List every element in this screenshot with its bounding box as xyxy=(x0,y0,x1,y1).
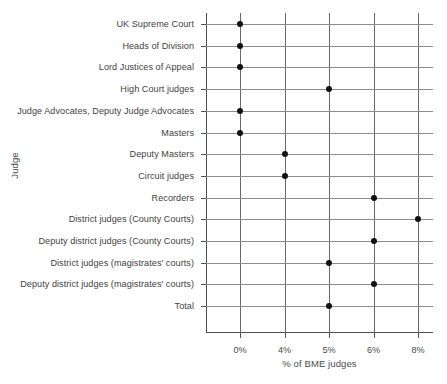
horizontal-gridline xyxy=(206,219,433,220)
x-axis-tick xyxy=(285,333,286,338)
y-axis-tick xyxy=(201,89,206,90)
y-axis-tick xyxy=(201,306,206,307)
y-axis-line xyxy=(206,13,207,333)
horizontal-gridline xyxy=(206,241,433,242)
y-axis-tick xyxy=(201,154,206,155)
x-axis-tick xyxy=(374,333,375,338)
horizontal-gridline xyxy=(206,89,433,90)
data-point xyxy=(237,130,243,136)
y-axis-category-label: Lord Justices of Appeal xyxy=(0,62,194,72)
x-axis-tick-label: 6% xyxy=(354,345,394,355)
data-point xyxy=(237,21,243,27)
data-point xyxy=(326,86,332,92)
data-point xyxy=(326,260,332,266)
y-axis-category-label: Deputy district judges (magistrates' cou… xyxy=(0,279,194,289)
data-point xyxy=(237,43,243,49)
x-axis-tick xyxy=(329,333,330,338)
x-axis-tick xyxy=(240,333,241,338)
y-axis-tick xyxy=(201,284,206,285)
horizontal-gridline xyxy=(206,198,433,199)
horizontal-gridline xyxy=(206,284,433,285)
y-axis-category-label: Judge Advocates, Deputy Judge Advocates xyxy=(0,106,194,116)
vertical-gridline xyxy=(240,13,241,333)
horizontal-gridline xyxy=(206,263,433,264)
y-axis-category-label: Total xyxy=(0,301,194,311)
vertical-gridline xyxy=(418,13,419,333)
y-axis-tick xyxy=(201,219,206,220)
data-point xyxy=(282,173,288,179)
data-point xyxy=(326,303,332,309)
y-axis-tick xyxy=(201,24,206,25)
x-axis-tick xyxy=(418,333,419,338)
horizontal-gridline xyxy=(206,306,433,307)
data-point xyxy=(415,216,421,222)
y-axis-tick xyxy=(201,133,206,134)
y-axis-tick xyxy=(201,67,206,68)
plot-area: 0%4%5%6%8% xyxy=(206,13,433,333)
y-axis-tick xyxy=(201,241,206,242)
x-axis-tick-label: 8% xyxy=(398,345,438,355)
y-axis-category-label: High Court judges xyxy=(0,84,194,94)
horizontal-gridline xyxy=(206,154,433,155)
data-point xyxy=(282,151,288,157)
y-axis-tick xyxy=(201,263,206,264)
data-point xyxy=(371,195,377,201)
y-axis-tick xyxy=(201,46,206,47)
y-axis-tick xyxy=(201,176,206,177)
y-axis-tick xyxy=(201,198,206,199)
x-axis-tick-label: 4% xyxy=(265,345,305,355)
y-axis-category-label: UK Supreme Court xyxy=(0,19,194,29)
data-point xyxy=(371,281,377,287)
data-point xyxy=(237,64,243,70)
y-axis-category-label: Masters xyxy=(0,128,194,138)
y-axis-category-label: Heads of Division xyxy=(0,41,194,51)
y-axis-category-label: Circuit judges xyxy=(0,171,194,181)
vertical-gridline xyxy=(329,13,330,333)
data-point xyxy=(237,108,243,114)
y-axis-tick xyxy=(201,111,206,112)
x-axis-tick-label: 5% xyxy=(309,345,349,355)
x-axis-tick-label: 0% xyxy=(220,345,260,355)
x-axis-title: % of BME judges xyxy=(206,358,433,369)
y-axis-category-label: District judges (County Courts) xyxy=(0,214,194,224)
y-axis-category-label: Deputy district judges (County Courts) xyxy=(0,236,194,246)
y-axis-category-label: District judges (magistrates' courts) xyxy=(0,258,194,268)
y-axis-category-label: Recorders xyxy=(0,193,194,203)
y-axis-category-label: Deputy Masters xyxy=(0,149,194,159)
data-point xyxy=(371,238,377,244)
y-axis-category-labels: UK Supreme CourtHeads of DivisionLord Ju… xyxy=(0,0,200,384)
horizontal-gridline xyxy=(206,176,433,177)
chart-container: Judge UK Supreme CourtHeads of DivisionL… xyxy=(0,0,447,384)
